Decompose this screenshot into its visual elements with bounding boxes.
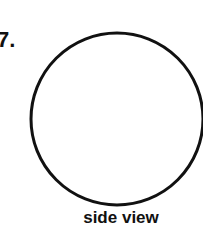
side-view-circle — [31, 33, 203, 205]
figure-caption: side view — [74, 209, 168, 225]
circle-figure — [0, 0, 203, 225]
